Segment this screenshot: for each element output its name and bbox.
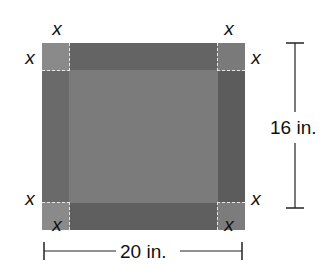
diagram-canvas: x x x x x x x x 16 in. 20 in. [0, 0, 336, 277]
height-dimension-label: 16 in. [270, 118, 316, 137]
width-dimension-label: 20 in. [120, 242, 166, 261]
dimension-lines [0, 0, 336, 277]
